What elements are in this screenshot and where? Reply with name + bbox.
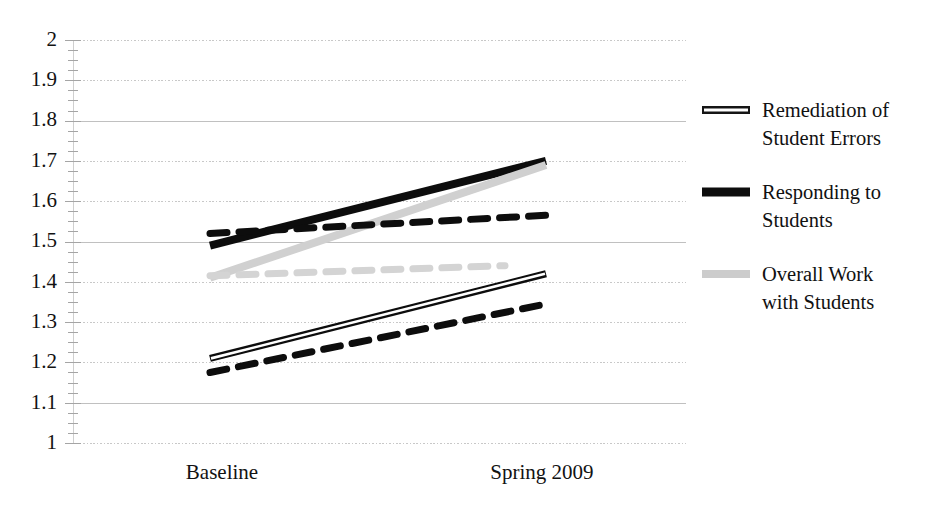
legend-label-line1: Responding to — [762, 181, 881, 204]
y-axis-tick-label: 1.4 — [31, 269, 58, 293]
y-axis-tick-label: 2 — [47, 27, 58, 51]
legend-label-line1: Remediation of — [762, 99, 889, 121]
y-axis-tick-label: 1.7 — [31, 148, 57, 172]
chart-canvas: 21.91.81.71.61.51.41.31.21.11 BaselineSp… — [0, 0, 938, 514]
legend-label-line2: Student Errors — [762, 127, 881, 149]
y-axis-tick-label: 1 — [47, 430, 58, 454]
line-chart: 21.91.81.71.61.51.41.31.21.11 BaselineSp… — [0, 0, 938, 514]
y-axis-tick-label: 1.1 — [31, 390, 57, 414]
y-axis-tick-label: 1.8 — [31, 107, 57, 131]
y-axis-tick-label: 1.2 — [31, 349, 57, 373]
y-axis-tick-labels: 21.91.81.71.61.51.41.31.21.11 — [31, 27, 58, 454]
legend-label-line2: Students — [762, 209, 833, 231]
legend-label-line2: with Students — [762, 291, 874, 313]
x-axis-tick-label: Spring 2009 — [490, 460, 593, 484]
y-axis-tick-label: 1.9 — [31, 67, 57, 91]
y-axis-tick-label: 1.6 — [31, 188, 57, 212]
x-axis-tick-label: Baseline — [186, 460, 258, 484]
chart-background — [0, 0, 938, 514]
legend-label-line1: Overall Work — [762, 263, 874, 285]
y-axis-tick-label: 1.3 — [31, 309, 57, 333]
y-axis-tick-label: 1.5 — [31, 228, 57, 252]
